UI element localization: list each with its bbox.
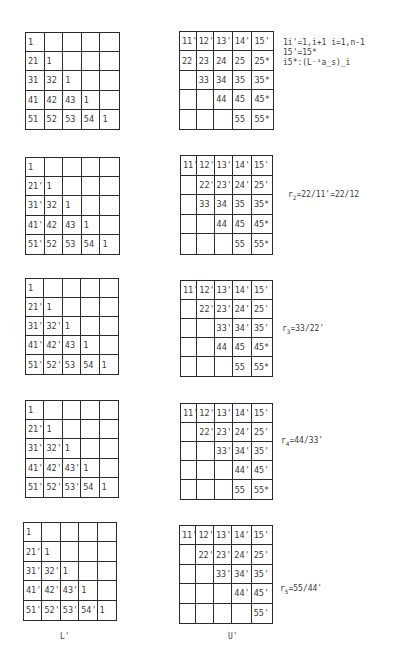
ratio-expression: =44/33' <box>289 436 323 445</box>
matrix-cell <box>215 234 233 254</box>
matrix-cell <box>197 234 214 254</box>
matrix-cell <box>100 279 118 298</box>
matrix-cell: 24 <box>214 51 233 70</box>
matrix-cell <box>180 110 197 129</box>
matrix-cell: 55' <box>252 604 272 623</box>
matrix-cell: 33' <box>215 442 233 461</box>
matrix-l-step-2: 121'131'32141'4243151'5253541 <box>25 157 120 255</box>
matrix-cell: 42 <box>45 216 64 235</box>
matrix-cell: 53 <box>63 235 82 254</box>
matrix-cell: 1 <box>100 478 118 497</box>
matrix-cell: 34' <box>232 565 251 584</box>
matrix-cell: 35 <box>233 71 253 90</box>
matrix-cell: 31' <box>26 317 44 336</box>
matrix-cell: 55 <box>233 480 252 499</box>
matrix-cell: 45 <box>233 90 253 109</box>
matrix-cell: 31' <box>26 439 44 458</box>
matrix-cell <box>180 584 196 603</box>
ratio-note-step-5: r5=55/44' <box>280 584 322 597</box>
matrix-u-step-3: 11'12'13'14'15'22'23'24'25'33'34'35'4445… <box>180 280 273 377</box>
matrix-cell <box>98 542 116 561</box>
matrix-cell <box>100 298 118 317</box>
matrix-cell <box>214 604 232 623</box>
matrix-cell: 22' <box>197 176 214 196</box>
matrix-cell: 55* <box>252 110 273 129</box>
matrix-cell: 1 <box>100 110 119 129</box>
matrix-cell: 24' <box>233 300 252 319</box>
caption-l-prime: L' <box>60 632 70 641</box>
matrix-cell <box>63 177 82 196</box>
matrix-cell <box>196 584 213 603</box>
matrix-cell: 54 <box>81 355 99 374</box>
matrix-cell <box>82 52 101 71</box>
matrix-cell: 35* <box>252 71 273 90</box>
matrix-cell: 45' <box>252 461 272 480</box>
matrix-cell: 42' <box>42 581 60 600</box>
matrix-cell: 52' <box>44 355 62 374</box>
matrix-cell: 41' <box>26 459 44 478</box>
matrix-cell: 11' <box>181 156 197 176</box>
matrix-cell: 45 <box>233 215 252 235</box>
matrix-cell: 1 <box>24 523 42 542</box>
matrix-cell <box>81 401 99 420</box>
matrix-cell: 34 <box>215 195 233 215</box>
matrix-cell: 43 <box>63 91 82 110</box>
matrix-cell <box>232 604 251 623</box>
matrix-cell <box>79 542 97 561</box>
matrix-cell <box>181 357 197 376</box>
matrix-cell: 1 <box>98 601 116 620</box>
matrix-cell <box>181 300 197 319</box>
matrix-cell: 1 <box>45 52 64 71</box>
ratio-note-step-4: r4=44/33' <box>281 436 323 449</box>
matrix-cell <box>100 439 118 458</box>
matrix-cell: 43 <box>63 216 82 235</box>
matrix-cell: 55* <box>252 480 272 499</box>
matrix-cell: 14' <box>233 281 252 300</box>
matrix-cell: 51' <box>26 478 44 497</box>
matrix-cell: 33 <box>197 71 215 90</box>
matrix-cell <box>215 461 233 480</box>
matrix-cell <box>98 581 116 600</box>
matrix-cell <box>100 401 118 420</box>
matrix-cell: 1 <box>26 158 45 177</box>
matrix-cell: 34' <box>233 442 252 461</box>
matrix-cell <box>82 177 101 196</box>
matrix-cell <box>100 317 118 336</box>
matrix-cell <box>197 90 215 109</box>
matrix-cell: 15' <box>252 526 272 545</box>
matrix-cell <box>197 480 214 499</box>
matrix-cell: 25' <box>252 423 272 442</box>
ratio-expression: =22/11'=22/12 <box>296 190 359 199</box>
matrix-cell <box>63 33 82 52</box>
matrix-cell: 1 <box>100 355 118 374</box>
matrix-cell <box>197 338 214 357</box>
matrix-cell: 14' <box>233 156 252 176</box>
matrix-u-step-4: 11'12'13'14'15'22'23'24'25'33'34'35'44'4… <box>180 403 273 500</box>
matrix-u-step-1: 11'12'13'14'15'2223242525*33343535*44454… <box>179 31 274 130</box>
matrix-cell: 35' <box>252 442 272 461</box>
matrix-cell <box>197 215 214 235</box>
matrix-cell <box>79 523 97 542</box>
matrix-cell: 1 <box>63 196 82 215</box>
matrix-cell: 43' <box>63 459 81 478</box>
matrix-cell <box>181 480 197 499</box>
matrix-cell: 54 <box>82 110 101 129</box>
matrix-cell: 1 <box>82 91 101 110</box>
matrix-cell <box>100 336 118 355</box>
matrix-cell <box>100 52 119 71</box>
matrix-cell: 43 <box>63 336 81 355</box>
matrix-cell <box>197 442 214 461</box>
matrix-cell: 31' <box>26 196 45 215</box>
matrix-cell: 24' <box>232 545 251 564</box>
matrix-cell: 13' <box>214 32 233 51</box>
matrix-cell: 1 <box>81 336 99 355</box>
matrix-cell: 23' <box>215 300 233 319</box>
matrix-cell <box>79 562 97 581</box>
matrix-cell: 21' <box>26 298 44 317</box>
matrix-u-step-5: 11'12'13'14'15'22'23'24'25'33'34'35'44'4… <box>179 525 273 624</box>
matrix-cell: 22' <box>197 300 214 319</box>
matrix-cell: 25' <box>252 176 272 196</box>
matrix-cell <box>61 542 79 561</box>
matrix-cell <box>215 357 233 376</box>
matrix-cell: 51' <box>26 355 44 374</box>
